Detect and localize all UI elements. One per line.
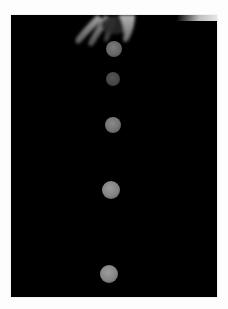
ball-position-3 bbox=[105, 117, 121, 133]
ball-position-4 bbox=[102, 181, 120, 199]
ball-position-5 bbox=[100, 265, 118, 283]
stroboscopic-photo bbox=[11, 15, 217, 297]
ball-position-2 bbox=[106, 72, 120, 86]
ball-position-1 bbox=[106, 41, 122, 57]
photo-border bbox=[0, 0, 228, 309]
hand-icon bbox=[11, 15, 217, 297]
